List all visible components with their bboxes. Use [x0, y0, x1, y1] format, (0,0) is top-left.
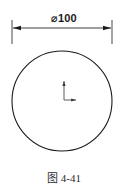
outer-circle — [12, 51, 112, 151]
figure-caption: 图 4-41 — [0, 169, 128, 185]
figure-canvas: ⌀100 图 4-41 — [0, 0, 128, 192]
diameter-dimension-label: ⌀100 — [0, 12, 128, 25]
technical-drawing — [0, 0, 128, 192]
